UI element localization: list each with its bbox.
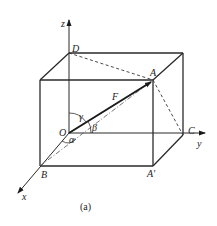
point-B-label: B <box>41 169 47 180</box>
box-edge-top-left <box>40 53 69 80</box>
x-axis-label: x <box>21 191 27 202</box>
box-edge-bottom-right <box>153 135 183 166</box>
origin-O-label: O <box>59 127 66 138</box>
point-D-label: D <box>71 43 80 54</box>
angle-alpha-label: α <box>69 134 75 145</box>
z-axis-label: z <box>60 18 65 29</box>
angle-gamma-arc <box>69 113 86 122</box>
angle-beta-arc <box>88 121 91 133</box>
point-C-label: C <box>188 125 195 136</box>
point-A-prime-label: A' <box>146 168 156 179</box>
figure-caption: (a) <box>80 201 91 213</box>
rectangular-box-force-diagram: z D A F γ β O α C y B A' x (a) <box>0 0 217 226</box>
y-axis-label: y <box>196 138 202 149</box>
dashed-line-DA <box>69 53 153 80</box>
dashed-line-AC <box>153 80 183 135</box>
point-A-label: A <box>149 67 157 78</box>
angle-beta-label: β <box>91 122 97 133</box>
vector-F-label: F <box>111 91 119 102</box>
force-vector-F <box>69 82 151 133</box>
box-edge-top-right <box>153 53 183 80</box>
angle-gamma-label: γ <box>79 111 84 122</box>
